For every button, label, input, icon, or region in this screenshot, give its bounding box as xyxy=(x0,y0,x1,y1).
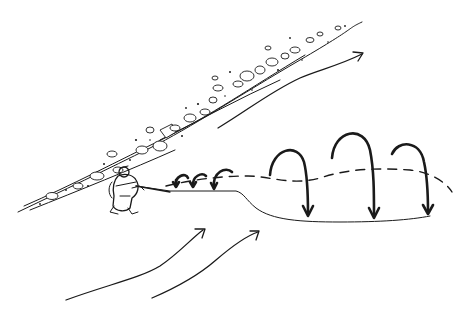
large-mend-arrows xyxy=(270,133,433,218)
fishing-diagram xyxy=(0,0,459,316)
illustration-canvas xyxy=(0,0,459,316)
dashed-drift-path xyxy=(166,169,452,192)
fly-line xyxy=(136,186,430,222)
angler-figure xyxy=(109,166,144,214)
